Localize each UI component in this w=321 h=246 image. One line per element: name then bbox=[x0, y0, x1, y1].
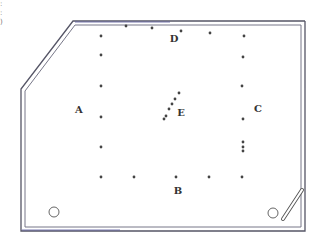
label-d: D bbox=[170, 33, 179, 44]
diamond-dot bbox=[100, 146, 103, 149]
diamond-dot bbox=[242, 146, 245, 149]
diamond-dot bbox=[175, 176, 178, 179]
diamond-dot bbox=[208, 176, 211, 179]
diamond-dot bbox=[242, 56, 245, 59]
diamond-dot bbox=[133, 176, 136, 179]
diamond-dot bbox=[178, 92, 181, 95]
billiard-table-diagram: ABCDE bbox=[0, 0, 321, 246]
table-frame-inner bbox=[25, 25, 301, 227]
diamond-dot bbox=[100, 54, 103, 57]
diamond-dot bbox=[243, 35, 246, 38]
diamond-dot bbox=[209, 32, 212, 35]
label-e: E bbox=[177, 107, 185, 118]
right-pocket-circle bbox=[268, 208, 278, 218]
label-b: B bbox=[174, 185, 182, 196]
diamond-dot bbox=[168, 108, 171, 111]
cue-stick-icon bbox=[283, 190, 302, 219]
diamond-dot bbox=[125, 25, 128, 28]
diamond-dot bbox=[242, 141, 245, 144]
diamond-dot bbox=[163, 118, 166, 121]
diamond-dots bbox=[100, 25, 246, 179]
diamond-dot bbox=[242, 118, 245, 121]
diamond-dot bbox=[100, 176, 103, 179]
table-frame-outer bbox=[21, 21, 305, 231]
position-labels: ABCDE bbox=[74, 33, 262, 196]
label-c: C bbox=[254, 103, 262, 114]
diamond-dot bbox=[174, 98, 177, 101]
diamond-dot bbox=[180, 30, 183, 33]
diamond-dot bbox=[241, 176, 244, 179]
diamond-dot bbox=[100, 85, 103, 88]
left-pocket-circle bbox=[49, 207, 59, 217]
diamond-dot bbox=[100, 116, 103, 119]
diamond-dot bbox=[151, 27, 154, 30]
diamond-dot bbox=[100, 35, 103, 38]
diamond-dot bbox=[171, 103, 174, 106]
label-a: A bbox=[74, 104, 83, 115]
diamond-dot bbox=[165, 115, 168, 118]
diamond-dot bbox=[242, 150, 245, 153]
diamond-dot bbox=[241, 85, 244, 88]
